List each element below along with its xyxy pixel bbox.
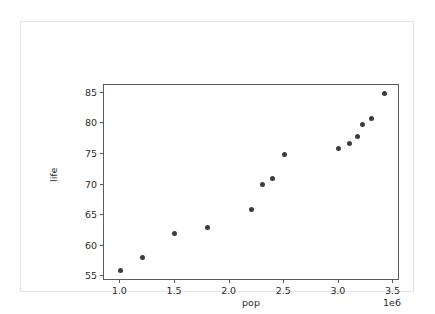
scatter-point [336, 146, 341, 151]
y-tick-mark [100, 275, 103, 276]
y-tick-label: 75 [77, 147, 97, 158]
x-tick-mark [119, 280, 120, 283]
x-tick-mark [174, 280, 175, 283]
screenshot-root: 1.01.52.02.53.03.555606570758085 pop lif… [0, 0, 435, 314]
scatter-points-layer [104, 85, 398, 279]
x-tick-label: 1.0 [112, 285, 127, 296]
scatter-point [260, 182, 265, 187]
scatter-point [172, 231, 177, 236]
scatter-point [282, 152, 287, 157]
plot-axes-area [103, 84, 399, 280]
scatter-point [369, 116, 374, 121]
x-tick-label: 2.5 [276, 285, 291, 296]
y-tick-mark [100, 184, 103, 185]
figure-frame: 1.01.52.02.53.03.555606570758085 pop lif… [20, 21, 414, 292]
y-tick-label: 55 [77, 270, 97, 281]
y-tick-label: 60 [77, 239, 97, 250]
scatter-point [118, 268, 123, 273]
y-tick-label: 65 [77, 209, 97, 220]
scatter-point [382, 91, 387, 96]
x-tick-label: 3.0 [330, 285, 345, 296]
scatter-point [347, 141, 352, 146]
y-tick-label: 70 [77, 178, 97, 189]
x-tick-label: 2.0 [221, 285, 236, 296]
x-axis-label: pop [103, 297, 399, 308]
y-tick-mark [100, 122, 103, 123]
x-axis-offset-text: 1e6 [383, 297, 401, 308]
scatter-point [355, 134, 360, 139]
scatter-point [360, 122, 365, 127]
x-tick-label: 3.5 [385, 285, 400, 296]
y-tick-mark [100, 214, 103, 215]
y-tick-label: 80 [77, 117, 97, 128]
y-tick-mark [100, 92, 103, 93]
x-tick-mark [229, 280, 230, 283]
y-tick-mark [100, 245, 103, 246]
y-axis-label: life [48, 168, 59, 182]
scatter-point [270, 176, 275, 181]
scatter-point [140, 255, 145, 260]
scatter-point [249, 207, 254, 212]
y-tick-label: 85 [77, 86, 97, 97]
x-tick-label: 1.5 [167, 285, 182, 296]
x-tick-mark [283, 280, 284, 283]
scatter-point [205, 225, 210, 230]
x-tick-mark [392, 280, 393, 283]
x-tick-mark [338, 280, 339, 283]
y-tick-mark [100, 153, 103, 154]
